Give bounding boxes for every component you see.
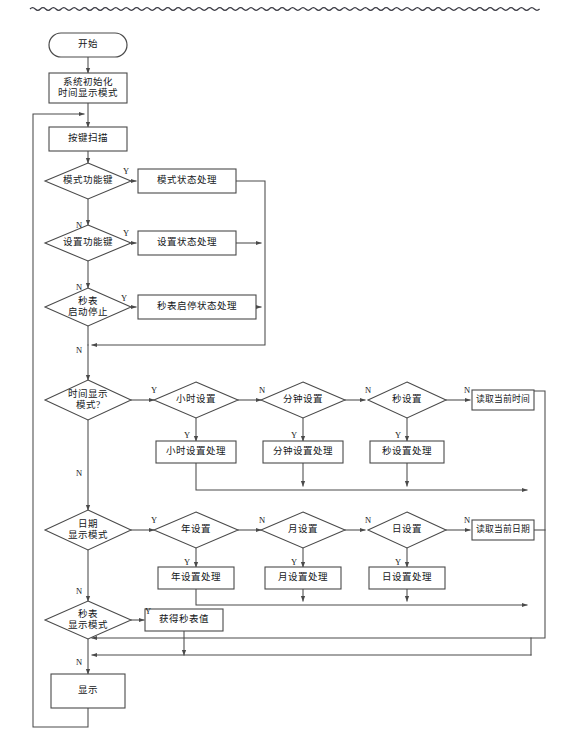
node-d_time_mode[interactable]: 时间显示模式? bbox=[45, 380, 131, 420]
node-d_hour[interactable]: 小时设置 bbox=[154, 382, 238, 418]
branch-label-hour-no: N bbox=[259, 385, 265, 395]
node-p_set_state[interactable]: 设置状态处理 bbox=[138, 231, 236, 255]
node-display[interactable]: 显示 bbox=[51, 674, 125, 708]
edge-readtime-return bbox=[92, 391, 545, 638]
node-p_mode_state-label: 模式状态处理 bbox=[157, 174, 217, 185]
top-wavy-rule bbox=[30, 8, 540, 11]
node-p_month_proc[interactable]: 月设置处理 bbox=[265, 567, 341, 589]
edge-return-bus-keys bbox=[92, 181, 265, 345]
branch-label-date-mode-yes: Y bbox=[151, 515, 157, 525]
branch-label-date-mode-no: N bbox=[76, 586, 82, 596]
node-d_day-label: 日设置 bbox=[392, 524, 422, 534]
branch-label-mode-key-yes: Y bbox=[123, 166, 129, 176]
flow-nodes: 开始系统初始化时间显示模式按键扫描模式功能键模式状态处理设置功能键设置状态处理秒… bbox=[45, 33, 534, 708]
branch-label-sec-no: N bbox=[464, 385, 470, 395]
node-p_read_time-label: 读取当前时间 bbox=[476, 393, 530, 404]
node-display-label: 显示 bbox=[78, 685, 98, 695]
node-p_hour_proc[interactable]: 小时设置处理 bbox=[156, 441, 236, 463]
node-p_get_sw-label: 获得秒表值 bbox=[159, 613, 209, 624]
branch-label-set-key-yes: Y bbox=[123, 228, 129, 238]
branch-label-year-no: N bbox=[259, 515, 265, 525]
branch-label-mode-key-no: N bbox=[76, 220, 82, 230]
node-p_read_date-label: 读取当前日期 bbox=[476, 523, 530, 534]
branch-label-sec-yes: Y bbox=[395, 430, 401, 440]
node-d_sec-label: 秒设置 bbox=[392, 393, 422, 404]
node-p_set_state-label: 设置状态处理 bbox=[157, 236, 217, 247]
edge-yearproc-merge bbox=[196, 589, 527, 605]
node-start[interactable]: 开始 bbox=[49, 33, 127, 57]
branch-label-min-yes: Y bbox=[291, 430, 297, 440]
branch-label-set-key-no: N bbox=[76, 282, 82, 292]
branch-label-month-yes: Y bbox=[291, 557, 297, 567]
node-d_mode_key-label: 模式功能键 bbox=[63, 174, 113, 185]
node-keyscan[interactable]: 按键扫描 bbox=[49, 127, 127, 151]
node-keyscan-label: 按键扫描 bbox=[68, 132, 108, 143]
node-p_sw_state-label: 秒表启停状态处理 bbox=[157, 300, 237, 311]
branch-label-sw-mode-yes: Y bbox=[145, 606, 151, 616]
node-p_year_proc-label: 年设置处理 bbox=[171, 571, 221, 582]
branch-label-day-no: N bbox=[464, 515, 470, 525]
node-d_sec[interactable]: 秒设置 bbox=[368, 382, 446, 418]
node-start-label: 开始 bbox=[78, 38, 98, 49]
node-d_set_key-label: 设置功能键 bbox=[63, 236, 113, 247]
flowchart-diagram: 开始系统初始化时间显示模式按键扫描模式功能键模式状态处理设置功能键设置状态处理秒… bbox=[0, 0, 565, 753]
flowchart-canvas: 开始系统初始化时间显示模式按键扫描模式功能键模式状态处理设置功能键设置状态处理秒… bbox=[0, 0, 565, 753]
branch-label-sw-mode-no: N bbox=[76, 657, 82, 667]
node-p_sec_proc[interactable]: 秒设置处理 bbox=[370, 441, 444, 463]
branch-label-month-no: N bbox=[365, 515, 371, 525]
node-d_year[interactable]: 年设置 bbox=[154, 512, 238, 548]
node-d_sw_mode[interactable]: 秒表显示模式 bbox=[45, 601, 131, 639]
node-p_min_proc-label: 分钟设置处理 bbox=[273, 445, 333, 456]
node-p_sw_state[interactable]: 秒表启停状态处理 bbox=[138, 295, 256, 319]
node-p_day_proc[interactable]: 日设置处理 bbox=[369, 567, 445, 589]
node-d_date_mode[interactable]: 日期显示模式 bbox=[45, 510, 131, 550]
node-p_read_date[interactable]: 读取当前日期 bbox=[472, 520, 534, 540]
node-p_sec_proc-label: 秒设置处理 bbox=[382, 445, 432, 456]
node-d_month-label: 月设置 bbox=[288, 524, 318, 534]
node-d_month[interactable]: 月设置 bbox=[261, 512, 345, 548]
node-d_hour-label: 小时设置 bbox=[176, 393, 216, 404]
branch-label-stopwatch-key-yes: Y bbox=[121, 293, 127, 303]
node-p_day_proc-label: 日设置处理 bbox=[382, 571, 432, 582]
node-d_min[interactable]: 分钟设置 bbox=[261, 382, 345, 418]
node-p_month_proc-label: 月设置处理 bbox=[278, 571, 328, 582]
branch-label-year-yes: Y bbox=[184, 557, 190, 567]
node-init[interactable]: 系统初始化时间显示模式 bbox=[49, 73, 127, 103]
node-d_min-label: 分钟设置 bbox=[283, 393, 323, 404]
node-p_year_proc[interactable]: 年设置处理 bbox=[158, 567, 234, 589]
node-p_get_sw[interactable]: 获得秒表值 bbox=[145, 609, 223, 631]
branch-label-stopwatch-key-no: N bbox=[76, 345, 82, 355]
node-d_sw_key[interactable]: 秒表启动停止 bbox=[45, 288, 131, 326]
branch-label-min-no: N bbox=[365, 385, 371, 395]
node-d_set_key[interactable]: 设置功能键 bbox=[45, 225, 131, 261]
node-p_read_time[interactable]: 读取当前时间 bbox=[472, 390, 534, 410]
branch-label-time-mode-yes: Y bbox=[151, 385, 157, 395]
node-p_hour_proc-label: 小时设置处理 bbox=[166, 445, 226, 456]
node-d_day[interactable]: 日设置 bbox=[368, 512, 446, 548]
node-d_year-label: 年设置 bbox=[181, 523, 211, 534]
branch-label-time-mode-no: N bbox=[76, 468, 82, 478]
edge-hourproc-merge bbox=[196, 463, 527, 490]
node-d_mode_key[interactable]: 模式功能键 bbox=[45, 163, 131, 199]
branch-label-day-yes: Y bbox=[395, 557, 401, 567]
node-p_mode_state[interactable]: 模式状态处理 bbox=[138, 169, 236, 193]
branch-label-hour-yes: Y bbox=[184, 430, 190, 440]
node-p_min_proc[interactable]: 分钟设置处理 bbox=[263, 441, 343, 463]
